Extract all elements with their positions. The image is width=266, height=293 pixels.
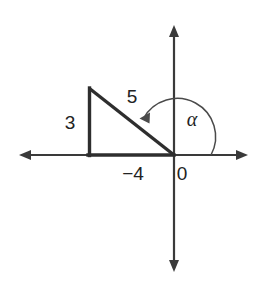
coordinate-plane-diagram: 3 5 −4 0 α: [0, 0, 266, 293]
math-figure: 3 5 −4 0 α: [0, 0, 266, 293]
label-vertical-leg: 3: [65, 112, 76, 133]
label-angle-alpha: α: [187, 108, 198, 130]
label-horizontal-leg: −4: [122, 163, 144, 184]
figure-background: [0, 0, 266, 293]
label-origin: 0: [177, 163, 188, 184]
label-hypotenuse: 5: [127, 86, 138, 107]
